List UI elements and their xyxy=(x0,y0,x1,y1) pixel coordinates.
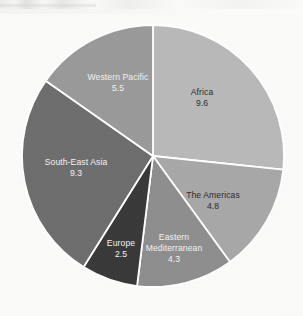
figure-canvas: Africa9.6The Americas4.8EasternMediterra… xyxy=(0,0,303,316)
pie-slice-value-eastern-mediterranean: 4.3 xyxy=(168,254,180,264)
pie-slice-name-the-americas: The Americas xyxy=(186,190,240,200)
pie-slice-name-south-east-asia: South-East Asia xyxy=(45,157,108,167)
pie-slice-africa[interactable] xyxy=(153,25,284,170)
pie-chart-svg: Africa9.6The Americas4.8EasternMediterra… xyxy=(0,0,303,316)
pie-slice-value-africa: 9.6 xyxy=(196,98,208,108)
pie-slice-name-western-pacific: Western Pacific xyxy=(87,72,149,82)
pie-slice-value-europe: 2.5 xyxy=(115,249,127,259)
pie-slice-name-europe: Europe xyxy=(107,238,135,248)
pie-slice-value-south-east-asia: 9.3 xyxy=(70,168,82,178)
pie-slice-name-africa: Africa xyxy=(191,87,214,97)
pie-slice-value-western-pacific: 5.5 xyxy=(112,83,124,93)
pie-slice-name-eastern-mediterranean: Eastern xyxy=(159,232,189,242)
pie-slice-value-the-americas: 4.8 xyxy=(207,201,219,211)
pie-chart: Africa9.6The Americas4.8EasternMediterra… xyxy=(0,0,303,316)
pie-slice-name-eastern-mediterranean: Mediterranean xyxy=(146,243,203,253)
